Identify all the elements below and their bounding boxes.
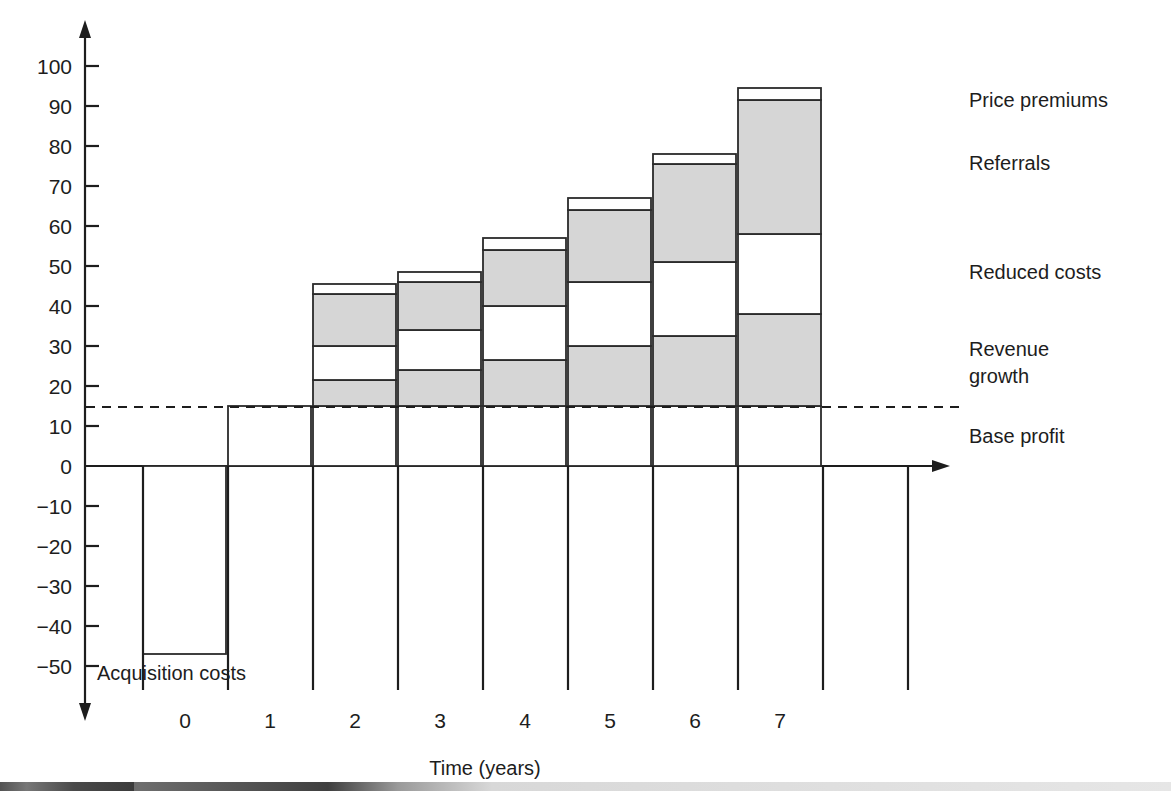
y-tick-label-20: 20 (49, 375, 72, 398)
segment-reduced-costs-y2 (313, 346, 396, 380)
segment-revenue-growth-y5 (568, 346, 651, 406)
segment-acquisition-costs (143, 466, 226, 654)
page-footer-rule-accent (0, 782, 134, 791)
segment-revenue-growth-y4 (483, 360, 566, 406)
y-tick-label-60: 60 (49, 215, 72, 238)
bar-year-4 (483, 238, 566, 466)
y-tick-label-neg50: −50 (36, 655, 72, 678)
y-tick-label-90: 90 (49, 95, 72, 118)
segment-base-profit-y6 (653, 406, 736, 466)
segment-price-premiums-y3 (398, 272, 481, 282)
y-axis-arrow-down-icon (79, 703, 91, 721)
y-tick-label-neg10: −10 (36, 495, 72, 518)
y-tick-label-neg40: −40 (36, 615, 72, 638)
chart-root: 100 90 80 70 60 50 40 30 20 10 0 −10 −20… (0, 0, 1171, 791)
y-tick-label-neg30: −30 (36, 575, 72, 598)
series-label-price-premiums: Price premiums (969, 89, 1108, 111)
y-tick-label-100: 100 (37, 55, 72, 78)
y-tick-label-neg20: −20 (36, 535, 72, 558)
segment-base-profit-y3 (398, 406, 481, 466)
x-tick-label-1: 1 (264, 709, 276, 732)
x-tick-labels: 0 1 2 3 4 5 6 7 (179, 709, 786, 732)
y-tick-label-40: 40 (49, 295, 72, 318)
y-tick-label-80: 80 (49, 135, 72, 158)
bar-year-2 (313, 284, 396, 466)
y-axis-arrow-up-icon (79, 20, 91, 38)
series-labels: Price premiums Referrals Reduced costs R… (969, 89, 1108, 447)
y-tick-label-30: 30 (49, 335, 72, 358)
annotation-acquisition-costs: Acquisition costs (97, 662, 246, 684)
segment-price-premiums-y2 (313, 284, 396, 294)
segment-referrals-y7 (738, 100, 821, 234)
segment-base-profit-y5 (568, 406, 651, 466)
segment-price-premiums-y4 (483, 238, 566, 250)
bar-year-0 (143, 466, 226, 654)
bar-year-5 (568, 198, 651, 466)
segment-referrals-y2 (313, 294, 396, 346)
x-tick-label-3: 3 (434, 709, 446, 732)
segment-price-premiums-y7 (738, 88, 821, 100)
series-label-revenue-growth-line2: growth (969, 365, 1029, 387)
bar-year-1 (228, 406, 311, 466)
segment-base-profit-y7 (738, 406, 821, 466)
series-label-revenue-growth-line1: Revenue (969, 338, 1049, 360)
bar-year-7 (738, 88, 821, 466)
segment-reduced-costs-y4 (483, 306, 566, 360)
segment-revenue-growth-y3 (398, 370, 481, 406)
segment-reduced-costs-y3 (398, 330, 481, 370)
y-tick-label-70: 70 (49, 175, 72, 198)
segment-referrals-y4 (483, 250, 566, 306)
stacked-bar-chart: 100 90 80 70 60 50 40 30 20 10 0 −10 −20… (0, 0, 1171, 791)
y-tick-label-50: 50 (49, 255, 72, 278)
bar-year-6 (653, 154, 736, 466)
segment-revenue-growth-y2 (313, 380, 396, 406)
series-label-reduced-costs: Reduced costs (969, 261, 1101, 283)
series-label-base-profit: Base profit (969, 425, 1065, 447)
x-tick-label-6: 6 (689, 709, 701, 732)
x-tick-label-0: 0 (179, 709, 191, 732)
x-tick-marks (143, 466, 908, 690)
segment-revenue-growth-y7 (738, 314, 821, 406)
segment-reduced-costs-y7 (738, 234, 821, 314)
segment-price-premiums-y5 (568, 198, 651, 210)
segment-base-profit-y4 (483, 406, 566, 466)
x-tick-label-2: 2 (349, 709, 361, 732)
x-tick-label-5: 5 (604, 709, 616, 732)
segment-base-profit-y2 (313, 406, 396, 466)
segment-reduced-costs-y6 (653, 262, 736, 336)
bar-year-3 (398, 272, 481, 466)
y-tick-label-0: 0 (60, 455, 72, 478)
segment-referrals-y3 (398, 282, 481, 330)
y-axis (79, 20, 91, 721)
segment-base-profit-y1 (228, 406, 311, 466)
x-tick-label-4: 4 (519, 709, 531, 732)
series-label-referrals: Referrals (969, 152, 1050, 174)
segment-price-premiums-y6 (653, 154, 736, 164)
segment-revenue-growth-y6 (653, 336, 736, 406)
segment-referrals-y5 (568, 210, 651, 282)
page-footer-rule (0, 782, 1171, 791)
x-axis-arrow-right-icon (932, 460, 950, 472)
x-tick-label-7: 7 (774, 709, 786, 732)
y-tick-label-10: 10 (49, 415, 72, 438)
y-tick-labels: 100 90 80 70 60 50 40 30 20 10 0 −10 −20… (36, 55, 72, 678)
x-axis-title: Time (years) (429, 757, 540, 779)
y-tick-marks (85, 66, 99, 666)
segment-referrals-y6 (653, 164, 736, 262)
segment-reduced-costs-y5 (568, 282, 651, 346)
